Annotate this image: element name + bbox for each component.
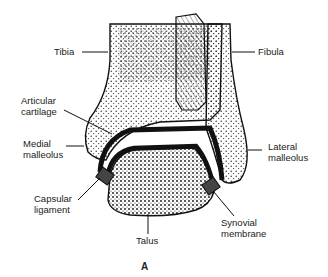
label-medial-malleolus-1: Medial: [23, 138, 51, 149]
label-fibula: Fibula: [258, 46, 284, 57]
interosseous-ligament: [176, 14, 206, 110]
label-capsular-ligament-1: Capsular: [34, 193, 72, 204]
label-articular-cartilage-2: cartilage: [21, 106, 57, 117]
label-tibia: Tibia: [54, 46, 74, 57]
label-capsular-ligament-2: ligament: [34, 204, 70, 215]
fibula-bone: [206, 24, 247, 183]
label-synovial-membrane-1: Synovial: [221, 217, 257, 228]
label-talus: Talus: [136, 235, 158, 246]
label-medial-malleolus-2: malleolus: [23, 149, 63, 160]
figure-caption: A: [141, 261, 148, 272]
label-lateral-malleolus-2: malleolus: [268, 152, 308, 163]
label-articular-cartilage-1: Articular: [21, 95, 56, 106]
label-lateral-malleolus-1: Lateral: [268, 141, 297, 152]
talus-bone: [108, 148, 214, 216]
label-synovial-membrane-2: membrane: [221, 228, 266, 239]
